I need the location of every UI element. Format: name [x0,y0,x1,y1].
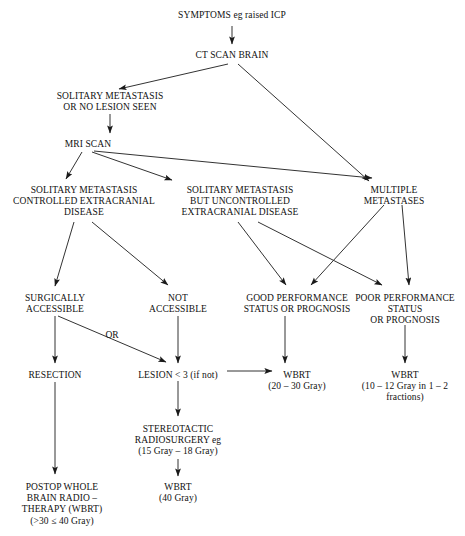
node-solitary-metastasis-or-no-lesion: SOLITARY METASTASIS OR NO LESION SEEN [15,91,205,113]
flowchart-canvas: SYMPTOMS eg raised ICP CT SCAN BRAIN SOL… [0,0,465,536]
node-poor-performance-status: POOR PERFORMANCE STATUS OR PROGNOSIS [345,293,465,327]
node-mri-scan: MRI SCAN [28,139,148,150]
node-surgically-accessible: SURGICALLY ACCESSIBLE [0,293,110,315]
edge-multiple-poor [402,205,409,285]
node-wbrt-40-gray: WBRT (40 Gray) [123,482,233,504]
edge-controlled-surgically [55,222,74,286]
edge-uncontrolled-poor [258,222,382,285]
node-wbrt-10-12-gray: WBRT (10 – 12 Gray in 1 – 2 fractions) [346,370,464,404]
node-resection: RESECTION [0,370,110,381]
node-wbrt-20-30-gray: WBRT (20 – 30 Gray) [242,370,352,392]
node-solitary-uncontrolled-extracranial: SOLITARY METASTASIS BUT UNCONTROLLED EXT… [158,185,323,219]
edge-mri-uncontrolled [92,152,172,180]
edge-ct-multiple [238,64,369,181]
node-multiple-metastases: MULTIPLE METASTASES [339,185,449,207]
node-symptoms: SYMPTOMS eg raised ICP [132,10,332,21]
node-good-performance-status: GOOD PERFORMANCE STATUS OR PROGNOSIS [232,293,362,315]
node-not-accessible: NOT ACCESSIBLE [128,293,228,315]
node-stereotactic-radiosurgery: STEREOTACTIC RADIOSURGERY eg (15 Gray – … [113,424,243,458]
node-ct-scan-brain: CT SCAN BRAIN [152,50,312,61]
node-solitary-controlled-extracranial: SOLITARY METASTASIS CONTROLLED EXTRACRAN… [0,185,174,219]
edge-label-or: OR [105,330,118,340]
edge-uncontrolled-good [238,222,286,285]
node-lesion-less-than-3: LESION < 3 (if not) [123,370,233,381]
edge-mri-multiple [94,151,372,178]
edge-controlled-not [92,222,168,285]
edge-ct-solitary [119,64,228,89]
edge-mri-controlled [66,152,82,179]
node-postop-whole-brain-radiotherapy: POSTOP WHOLE BRAIN RADIO – THERAPY (WBRT… [2,482,122,527]
